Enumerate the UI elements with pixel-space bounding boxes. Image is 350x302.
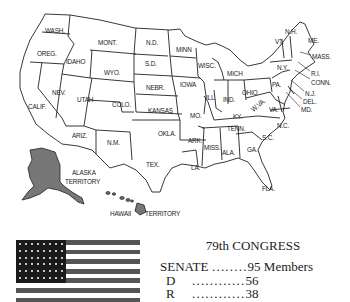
label-minn: MINN bbox=[176, 45, 192, 54]
star-icon bbox=[49, 257, 51, 259]
label-la: LA. bbox=[191, 163, 200, 172]
label-mo: MO. bbox=[190, 111, 202, 120]
star-icon bbox=[55, 263, 57, 265]
label-nebr: NEBR. bbox=[146, 83, 165, 92]
label-conn: CONN. bbox=[311, 78, 331, 87]
label-mich: MICH bbox=[227, 69, 243, 78]
star-icon bbox=[43, 250, 45, 252]
label-wash: WASH. bbox=[45, 26, 65, 35]
star-icon bbox=[31, 250, 33, 252]
label-ind: IND. bbox=[223, 95, 235, 104]
label-sd: S.D. bbox=[145, 59, 157, 68]
star-icon bbox=[25, 250, 27, 252]
star-icon bbox=[37, 277, 39, 279]
star-icon bbox=[43, 257, 45, 259]
star-icon bbox=[55, 257, 57, 259]
label-alaska-territory: TERRITORY bbox=[65, 177, 100, 186]
label-tex: TEX. bbox=[146, 160, 159, 169]
star-icon bbox=[49, 263, 51, 265]
label-nd: N.D. bbox=[146, 38, 158, 47]
star-icon bbox=[37, 250, 39, 252]
star-icon bbox=[55, 250, 57, 252]
label-nev: NEV. bbox=[52, 88, 66, 97]
star-icon bbox=[43, 270, 45, 272]
star-icon bbox=[19, 257, 21, 259]
label-ohio: OHIO bbox=[242, 88, 258, 97]
label-hawaii-territory: TERRITORY bbox=[145, 209, 180, 218]
label-fla: FLA. bbox=[262, 184, 275, 193]
star-icon bbox=[61, 250, 63, 252]
star-icon bbox=[19, 277, 21, 279]
star-icon bbox=[61, 257, 63, 259]
label-miss: MISS. bbox=[204, 143, 221, 152]
label-mont: MONT. bbox=[98, 38, 117, 47]
republican-label: R bbox=[160, 286, 192, 302]
star-icon bbox=[19, 263, 21, 265]
star-icon bbox=[19, 243, 21, 245]
star-icon bbox=[19, 270, 21, 272]
label-colo: COLO. bbox=[112, 100, 131, 109]
star-icon bbox=[31, 277, 33, 279]
us-flag bbox=[16, 240, 140, 302]
label-nh: N.H. bbox=[285, 27, 297, 36]
star-icon bbox=[43, 277, 45, 279]
label-vt: VT. bbox=[275, 37, 284, 46]
label-mass: MASS. bbox=[312, 52, 331, 61]
star-icon bbox=[25, 263, 27, 265]
label-ny: N.Y. bbox=[277, 63, 288, 72]
label-nc: N.C. bbox=[277, 121, 289, 130]
star-icon bbox=[49, 243, 51, 245]
star-icon bbox=[31, 270, 33, 272]
star-icon bbox=[61, 263, 63, 265]
republican-row: R............38 bbox=[160, 286, 258, 302]
label-alaska: ALASKA bbox=[72, 168, 96, 177]
republican-value: 38 bbox=[245, 286, 258, 301]
label-iowa: IOWA bbox=[180, 80, 196, 89]
star-icon bbox=[49, 250, 51, 252]
star-icon bbox=[61, 277, 63, 279]
label-hawaii: HAWAII bbox=[110, 209, 131, 218]
star-icon bbox=[43, 263, 45, 265]
star-icon bbox=[37, 270, 39, 272]
star-icon bbox=[25, 243, 27, 245]
label-pa: PA. bbox=[272, 80, 281, 89]
star-icon bbox=[61, 243, 63, 245]
label-me: ME. bbox=[308, 36, 319, 45]
label-ark: ARK. bbox=[188, 136, 202, 145]
label-tenn: TENN. bbox=[227, 124, 245, 133]
star-icon bbox=[37, 263, 39, 265]
label-utah: UTAH bbox=[77, 95, 93, 104]
label-wyo: WYO. bbox=[104, 68, 120, 77]
star-icon bbox=[19, 250, 21, 252]
star-icon bbox=[37, 257, 39, 259]
star-icon bbox=[25, 257, 27, 259]
star-icon bbox=[25, 277, 27, 279]
star-icon bbox=[37, 243, 39, 245]
star-icon bbox=[31, 263, 33, 265]
label-ala: ALA. bbox=[222, 148, 235, 157]
star-icon bbox=[61, 270, 63, 272]
label-calif: CALIF. bbox=[28, 102, 46, 111]
star-icon bbox=[55, 243, 57, 245]
us-outline bbox=[20, 14, 315, 192]
label-wisc: WISC. bbox=[198, 61, 216, 70]
label-sc: S.C. bbox=[262, 133, 274, 142]
label-ariz: ARIZ. bbox=[72, 131, 87, 140]
star-icon bbox=[55, 270, 57, 272]
label-va: VA. bbox=[269, 105, 278, 114]
star-icon bbox=[25, 270, 27, 272]
star-icon bbox=[49, 270, 51, 272]
label-ill: ILL. bbox=[206, 93, 216, 102]
label-ky: KY. bbox=[233, 112, 242, 121]
star-icon bbox=[55, 277, 57, 279]
star-icon bbox=[43, 243, 45, 245]
label-ga: GA. bbox=[247, 145, 257, 154]
label-idaho: IDAHO bbox=[66, 57, 85, 66]
republican-dots: ............ bbox=[192, 286, 245, 302]
star-icon bbox=[31, 243, 33, 245]
label-oreg: OREG. bbox=[37, 49, 57, 58]
senate-value: 95 Members bbox=[248, 259, 313, 274]
label-nm: N.M. bbox=[107, 138, 120, 147]
label-okla: OKLA. bbox=[158, 129, 176, 138]
label-md: MD. bbox=[301, 105, 312, 114]
